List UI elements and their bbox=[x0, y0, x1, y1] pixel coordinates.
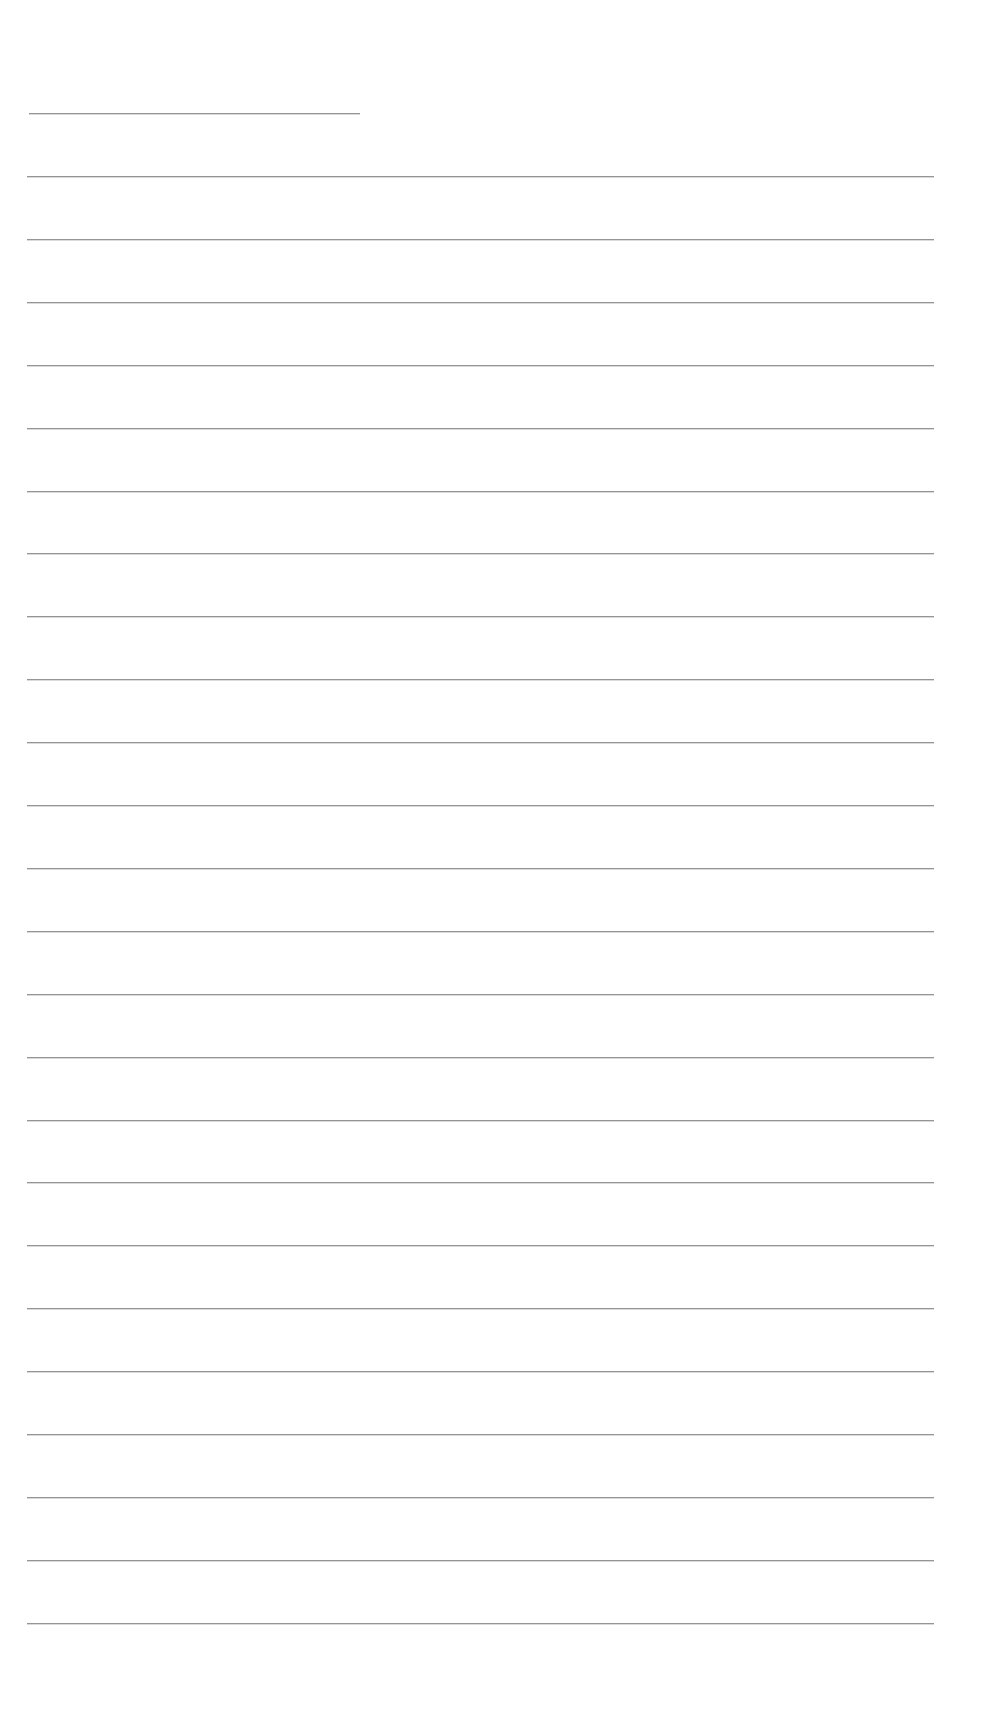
ruled-line bbox=[27, 1308, 934, 1310]
ruled-line bbox=[27, 553, 934, 555]
ruled-line bbox=[27, 742, 934, 744]
ruled-line bbox=[27, 931, 934, 933]
ruled-line bbox=[27, 1120, 934, 1122]
ruled-line bbox=[27, 1245, 934, 1247]
ruled-line bbox=[27, 868, 934, 870]
header-rule-line bbox=[29, 113, 360, 115]
ruled-line bbox=[27, 239, 934, 241]
ruled-line bbox=[27, 616, 934, 618]
ruled-line bbox=[27, 302, 934, 304]
ruled-line bbox=[27, 1560, 934, 1562]
ruled-line bbox=[27, 1182, 934, 1184]
ruled-line bbox=[27, 365, 934, 367]
ruled-line bbox=[27, 491, 934, 493]
ruled-line bbox=[27, 176, 934, 178]
ruled-line bbox=[27, 1057, 934, 1059]
ruled-line bbox=[27, 428, 934, 430]
ruled-line bbox=[27, 1371, 934, 1373]
ruled-line bbox=[27, 1623, 934, 1625]
ruled-line bbox=[27, 1497, 934, 1499]
ruled-line bbox=[27, 679, 934, 681]
ruled-line bbox=[27, 1434, 934, 1436]
ruled-line bbox=[27, 994, 934, 996]
lined-page bbox=[0, 0, 987, 1723]
ruled-line bbox=[27, 805, 934, 807]
